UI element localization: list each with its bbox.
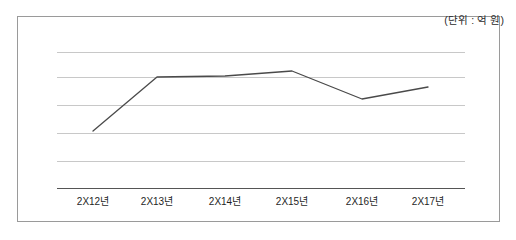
chart-frame-border <box>17 16 500 222</box>
chart-figure: (단위 : 억 원) 2X12년2X13년2X14년2X15년2X16년2X17… <box>0 0 516 240</box>
x-tick-label-1: 2X13년 <box>141 193 173 208</box>
unit-annotation: (단위 : 억 원) <box>444 12 504 27</box>
x-tick-label-0: 2X12년 <box>77 193 109 208</box>
x-tick-label-5: 2X17년 <box>412 193 444 208</box>
x-tick-label-2: 2X14년 <box>209 193 241 208</box>
x-tick-label-3: 2X15년 <box>276 193 308 208</box>
x-tick-label-4: 2X16년 <box>346 193 378 208</box>
